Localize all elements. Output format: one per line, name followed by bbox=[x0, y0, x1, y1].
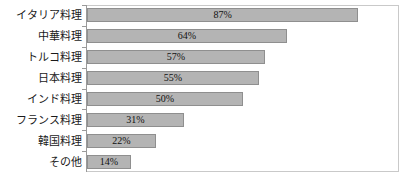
bar-wrapper: 57% bbox=[87, 50, 265, 64]
category-label: 韓国料理 bbox=[38, 135, 82, 146]
bar-wrapper: 87% bbox=[87, 8, 358, 22]
bar-wrapper: 55% bbox=[87, 71, 259, 85]
axis-tick bbox=[82, 5, 87, 6]
bar[interactable]: 87% bbox=[87, 8, 358, 22]
category-label: フランス料理 bbox=[16, 114, 82, 125]
bar-wrapper: 64% bbox=[87, 29, 287, 43]
category-label: トルコ料理 bbox=[27, 52, 82, 63]
category-label: イタリア料理 bbox=[16, 10, 82, 21]
chart-row: イタリア料理 87% bbox=[0, 5, 409, 26]
bar[interactable]: 57% bbox=[87, 50, 265, 64]
bar-wrapper: 22% bbox=[87, 134, 156, 148]
bar[interactable]: 31% bbox=[87, 113, 184, 127]
bar-value-label: 31% bbox=[88, 115, 183, 125]
axis-tick bbox=[82, 89, 87, 90]
axis-tick bbox=[82, 47, 87, 48]
bar[interactable]: 50% bbox=[87, 92, 243, 106]
axis-tick bbox=[82, 130, 87, 131]
chart-row: フランス料理 31% bbox=[0, 109, 409, 130]
bar-wrapper: 31% bbox=[87, 113, 184, 127]
axis-tick bbox=[82, 109, 87, 110]
category-label: インド料理 bbox=[27, 93, 82, 104]
bar-wrapper: 50% bbox=[87, 92, 243, 106]
chart-row: 韓国料理 22% bbox=[0, 130, 409, 151]
bar[interactable]: 55% bbox=[87, 71, 259, 85]
chart-row: 日本料理 55% bbox=[0, 68, 409, 89]
bar-value-label: 87% bbox=[88, 10, 357, 20]
axis-tick bbox=[82, 68, 87, 69]
chart-row: その他 14% bbox=[0, 151, 409, 172]
bar-value-label: 57% bbox=[88, 52, 264, 62]
bar[interactable]: 64% bbox=[87, 29, 287, 43]
axis-tick bbox=[82, 26, 87, 27]
category-label: 日本料理 bbox=[38, 73, 82, 84]
bar-rows: イタリア料理 87% 中華料理 64% トルコ料理 57% bbox=[0, 5, 409, 172]
bar-value-label: 55% bbox=[88, 73, 258, 83]
bar[interactable]: 14% bbox=[87, 155, 131, 169]
category-label: 中華料理 bbox=[38, 31, 82, 42]
bar-wrapper: 14% bbox=[87, 155, 131, 169]
chart-row: トルコ料理 57% bbox=[0, 47, 409, 68]
bar[interactable]: 22% bbox=[87, 134, 156, 148]
bar-value-label: 14% bbox=[88, 157, 130, 167]
bar-value-label: 22% bbox=[88, 136, 155, 146]
bar-chart: イタリア料理 87% 中華料理 64% トルコ料理 57% bbox=[0, 0, 409, 182]
axis-tick bbox=[82, 151, 87, 152]
bar-value-label: 50% bbox=[88, 94, 242, 104]
chart-row: インド料理 50% bbox=[0, 89, 409, 110]
chart-row: 中華料理 64% bbox=[0, 26, 409, 47]
category-label: その他 bbox=[49, 156, 82, 167]
bar-value-label: 64% bbox=[88, 31, 286, 41]
